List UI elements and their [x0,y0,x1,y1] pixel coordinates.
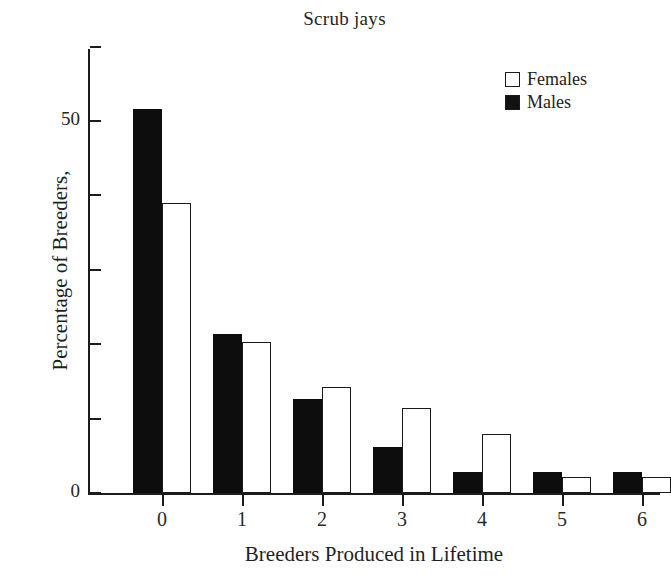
x-axis-title: Breeders Produced in Lifetime [88,542,660,567]
bar-males-1 [213,334,242,493]
bar-males-6 [613,472,642,493]
legend-swatch-males-icon [505,95,520,110]
x-axis-tick-label: 0 [147,508,177,531]
x-axis-tick [162,495,164,506]
x-axis-line [88,493,660,495]
x-axis-tick [242,495,244,506]
bar-males-3 [373,447,402,493]
y-axis-title: Percentage of Breeders, [48,71,73,471]
x-axis-tick [642,495,644,506]
x-axis-tick-label: 6 [627,508,657,531]
y-axis-tick [90,492,101,494]
bar-females-3 [402,408,431,493]
x-axis-tick-label: 1 [227,508,257,531]
x-axis-tick-label: 3 [387,508,417,531]
y-axis-tick [90,343,101,345]
chart-title: Scrub jays [0,8,669,30]
legend-label-females: Females [527,68,587,91]
bar-males-5 [533,472,562,493]
y-axis-line [88,49,90,495]
x-axis-tick-label: 4 [467,508,497,531]
x-axis-tick-label: 2 [307,508,337,531]
legend-label-males: Males [527,91,571,114]
y-axis-tick [90,418,101,420]
y-axis-tick [90,120,101,122]
y-axis-tick [90,194,101,196]
legend-swatch-females-icon [505,72,520,87]
legend-item-females[interactable]: Females [505,68,587,91]
legend-item-males[interactable]: Males [505,91,587,114]
bar-females-1 [242,342,271,493]
bar-females-5 [562,477,591,493]
bar-females-0 [162,203,191,493]
y-axis-tick [90,46,101,48]
x-axis-tick [322,495,324,506]
bar-males-0 [133,109,162,493]
x-axis-tick [482,495,484,506]
bar-females-6 [642,477,671,493]
bar-males-2 [293,399,322,493]
chart-legend: Females Males [505,68,587,114]
x-axis-tick [402,495,404,506]
bar-females-4 [482,434,511,493]
y-axis-tick [90,269,101,271]
y-axis-tick-label: 0 [40,480,80,502]
x-axis-tick [562,495,564,506]
x-axis-tick-label: 5 [547,508,577,531]
bar-males-4 [453,472,482,493]
bar-females-2 [322,387,351,493]
